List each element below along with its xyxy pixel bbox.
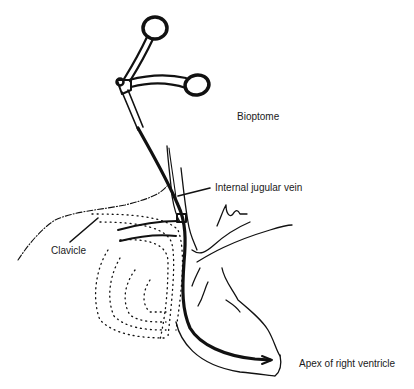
label-clavicle: Clavicle — [51, 246, 86, 256]
label-internal-jugular-vein: Internal jugular vein — [215, 183, 302, 193]
label-apex-right-ventricle: Apex of right ventricle — [299, 359, 395, 369]
bioptome-handle — [117, 17, 211, 97]
bioptome-catheter — [122, 90, 272, 364]
clavicle — [70, 218, 178, 242]
label-bioptome: Bioptome — [237, 112, 279, 122]
diagram-drawing — [0, 0, 414, 389]
lung-outline — [92, 214, 182, 340]
heart-outline — [176, 205, 292, 376]
biopsy-diagram: Bioptome Internal jugular vein Clavicle … — [0, 0, 414, 389]
